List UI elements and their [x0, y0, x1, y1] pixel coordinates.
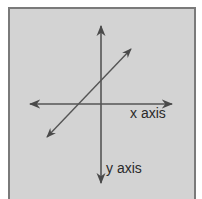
x-axis-label: x axis: [130, 106, 166, 120]
axes-diagram: [0, 0, 202, 199]
diagonal-line: [47, 49, 131, 137]
y-axis-label: y axis: [106, 161, 142, 175]
